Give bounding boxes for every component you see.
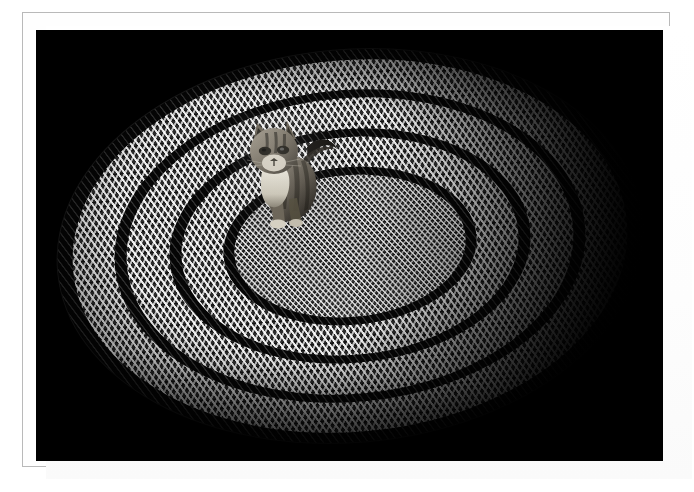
photo-card: [0, 0, 694, 492]
braided-oval-rug: [37, 31, 662, 460]
photograph: [37, 31, 662, 460]
